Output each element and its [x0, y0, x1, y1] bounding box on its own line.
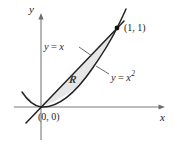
- point-label-upper-intersection: (1, 1): [124, 23, 146, 33]
- point-marker-11: [115, 26, 120, 31]
- line-equation-label: y=x: [44, 42, 64, 53]
- y-axis-arrow-icon: [38, 13, 43, 20]
- leader-line-to-parabola: [96, 66, 109, 74]
- parabola-curve: [22, 9, 126, 107]
- figure-graphics: [0, 0, 175, 147]
- leader-line-to-line: [79, 47, 92, 56]
- line-equation-equals: =: [49, 41, 59, 52]
- point-label-origin-intersection: (0, 0): [38, 112, 60, 122]
- y-axis-label: y: [29, 4, 34, 15]
- line-equation-rhs: x: [59, 41, 64, 52]
- parabola-equation-exponent: 2: [131, 69, 135, 78]
- region-label-R: R: [68, 74, 76, 85]
- x-axis-arrow-icon: [159, 104, 166, 109]
- figure-canvas: y x y=x y=x2 (1, 1) (0, 0) R: [0, 0, 175, 147]
- x-axis-label: x: [160, 112, 165, 123]
- parabola-equation-label: y=x2: [111, 70, 135, 83]
- parabola-equation-equals: =: [116, 72, 126, 83]
